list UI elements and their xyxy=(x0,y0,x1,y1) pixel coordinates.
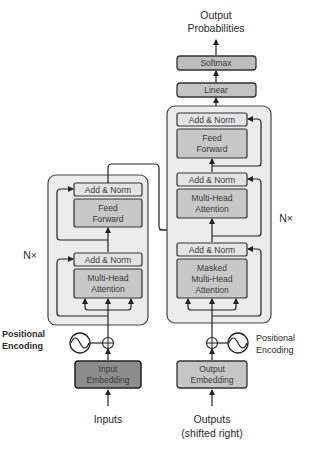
svg-text:Forward: Forward xyxy=(92,214,123,224)
encoder-multi-head-attention: Multi-Head Attention xyxy=(74,269,142,298)
svg-text:Input: Input xyxy=(99,364,119,374)
outputs-label-line1: Outputs xyxy=(194,413,231,425)
encoder-positional-label-line2: Encoding xyxy=(2,341,43,351)
linear-block: Linear xyxy=(177,83,256,97)
svg-text:Add & Norm: Add & Norm xyxy=(189,115,235,125)
linear-label: Linear xyxy=(204,85,228,95)
svg-text:Attention: Attention xyxy=(195,285,229,295)
decoder-add-norm-bottom: Add & Norm xyxy=(177,243,247,256)
decoder-masked-multi-head-attention: Masked Multi-Head Attention xyxy=(177,259,247,298)
decoder-multi-head-attention: Multi-Head Attention xyxy=(177,189,247,218)
decoder-repeat-label: N× xyxy=(279,212,293,224)
svg-text:Multi-Head: Multi-Head xyxy=(191,274,232,284)
svg-text:Add & Norm: Add & Norm xyxy=(189,245,235,255)
svg-text:Add & Norm: Add & Norm xyxy=(85,255,131,265)
inputs-label: Inputs xyxy=(94,413,123,425)
softmax-block: Softmax xyxy=(177,56,256,70)
svg-text:Feed: Feed xyxy=(202,133,222,143)
svg-text:Attention: Attention xyxy=(91,284,125,294)
svg-text:Add & Norm: Add & Norm xyxy=(189,175,235,185)
encoder-block xyxy=(48,175,148,325)
svg-text:Embedding: Embedding xyxy=(86,375,129,385)
svg-text:Masked: Masked xyxy=(197,263,227,273)
decoder-positional-label-line1: Positional xyxy=(256,333,295,343)
svg-text:Forward: Forward xyxy=(196,144,227,154)
output-probabilities-title-line1: Output xyxy=(200,9,232,21)
decoder-add-icon xyxy=(207,338,218,349)
encoder-add-norm-bottom: Add & Norm xyxy=(74,253,142,266)
output-embedding-block: Output Embedding xyxy=(177,361,247,388)
encoder-add-norm-top: Add & Norm xyxy=(74,183,142,196)
encoder-repeat-label: N× xyxy=(23,249,37,261)
encoder-add-icon xyxy=(103,338,114,349)
svg-text:Output: Output xyxy=(199,364,225,374)
decoder-feed-forward: Feed Forward xyxy=(177,129,247,158)
encoder-feed-forward: Feed Forward xyxy=(74,199,142,227)
softmax-label: Softmax xyxy=(200,58,232,68)
decoder-add-norm-top: Add & Norm xyxy=(177,113,247,126)
svg-text:Feed: Feed xyxy=(98,203,118,213)
input-embedding-block: Input Embedding xyxy=(75,361,141,388)
svg-text:Attention: Attention xyxy=(195,204,229,214)
svg-text:Add & Norm: Add & Norm xyxy=(85,185,131,195)
encoder-positional-wave-icon xyxy=(70,333,90,353)
decoder-add-norm-mid: Add & Norm xyxy=(177,173,247,186)
encoder-positional-label-line1: Positional xyxy=(2,329,45,339)
svg-text:Multi-Head: Multi-Head xyxy=(191,193,232,203)
transformer-diagram: Output Probabilities Softmax Linear N× A… xyxy=(0,0,321,456)
decoder-positional-label-line2: Encoding xyxy=(256,345,294,355)
svg-text:Embedding: Embedding xyxy=(190,375,233,385)
decoder-positional-wave-icon xyxy=(228,333,248,353)
outputs-label-line2: (shifted right) xyxy=(181,427,242,439)
svg-text:Multi-Head: Multi-Head xyxy=(87,273,128,283)
output-probabilities-title-line2: Probabilities xyxy=(187,22,244,34)
